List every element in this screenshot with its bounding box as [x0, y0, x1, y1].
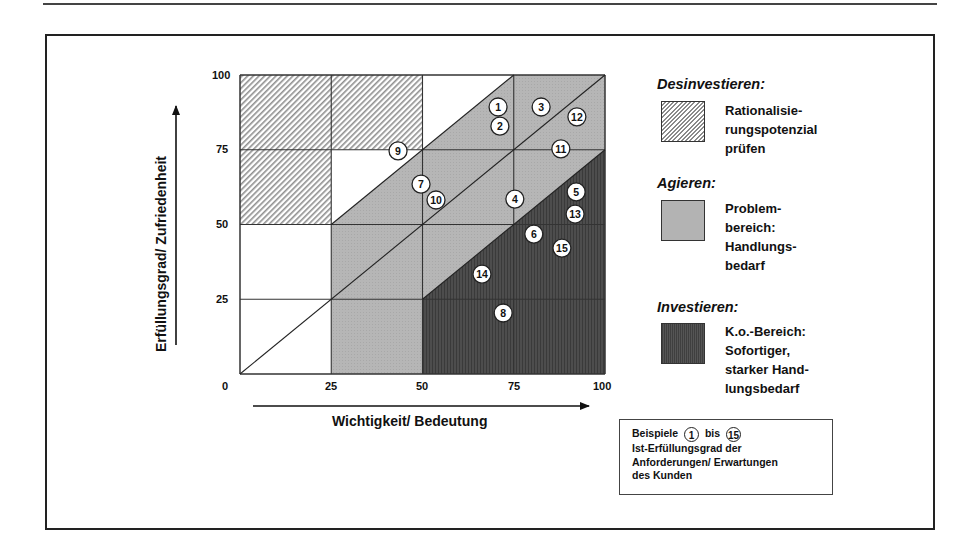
- point-label: 9: [395, 145, 401, 157]
- example-point-10: 10: [427, 191, 445, 209]
- point-label: 12: [571, 111, 583, 123]
- y-tick-75: 75: [216, 143, 228, 155]
- note-first-line: Beispiele 1 bis 15: [632, 427, 832, 442]
- point-label: 4: [512, 193, 518, 205]
- legend-title-desinvestieren: Desinvestieren:: [657, 76, 765, 92]
- legend-text-investieren: K.o.-Bereich: Sofortiger, starker Hand- …: [725, 322, 809, 398]
- example-point-13: 13: [566, 205, 584, 223]
- point-label: 8: [500, 307, 506, 319]
- point-label: 7: [418, 178, 424, 190]
- example-point-1: 1: [489, 98, 507, 116]
- point-label: 14: [476, 268, 488, 280]
- example-point-11: 11: [552, 140, 570, 158]
- example-point-9: 9: [389, 142, 407, 160]
- example-point-15: 15: [553, 239, 571, 257]
- legend-swatch-dark-grey: [661, 323, 705, 364]
- example-point-4: 4: [506, 190, 524, 208]
- x-tick-75: 75: [508, 380, 520, 392]
- point-label: 6: [531, 228, 537, 240]
- legend-title-investieren: Investieren:: [657, 299, 738, 315]
- x-tick-100: 100: [593, 380, 611, 392]
- y-tick-25: 25: [216, 293, 228, 305]
- legend-swatch-light-grey: [661, 200, 705, 241]
- x-tick-25: 25: [325, 380, 337, 392]
- example-point-3: 3: [532, 98, 550, 116]
- circle-marker-15: 15: [726, 427, 741, 442]
- y-axis-label: Erfüllungsgrad/ Zufriedenheit: [153, 156, 169, 352]
- legend-text-agieren: Problem- bereich: Handlungs- bedarf: [725, 199, 797, 275]
- examples-note: Beispiele 1 bis 15 Ist-Erfüllungsgrad de…: [619, 419, 833, 495]
- example-point-6: 6: [525, 225, 543, 243]
- x-tick-0: 0: [222, 380, 228, 392]
- point-label: 3: [538, 101, 544, 113]
- example-point-2: 2: [491, 117, 509, 135]
- example-point-14: 14: [473, 265, 491, 283]
- legend-swatch-hatched: [661, 101, 705, 142]
- y-tick-100: 100: [212, 69, 230, 81]
- x-axis-label: Wichtigkeit/ Bedeutung: [332, 413, 487, 429]
- y-tick-50: 50: [216, 218, 228, 230]
- legend-title-agieren: Agieren:: [657, 175, 716, 191]
- example-point-7: 7: [412, 175, 430, 193]
- example-point-8: 8: [494, 304, 512, 322]
- legend-text-desinvestieren: Rationalisie- rungspotenzial prüfen: [725, 101, 817, 158]
- point-label: 1: [495, 101, 501, 113]
- example-point-5: 5: [567, 183, 585, 201]
- example-point-12: 12: [568, 108, 586, 126]
- point-label: 13: [569, 208, 581, 220]
- x-tick-50: 50: [416, 380, 428, 392]
- point-label: 10: [430, 194, 442, 206]
- point-label: 5: [573, 186, 579, 198]
- point-label: 15: [556, 242, 568, 254]
- point-label: 11: [555, 143, 566, 155]
- point-label: 2: [497, 120, 503, 132]
- circle-marker-1: 1: [684, 427, 699, 442]
